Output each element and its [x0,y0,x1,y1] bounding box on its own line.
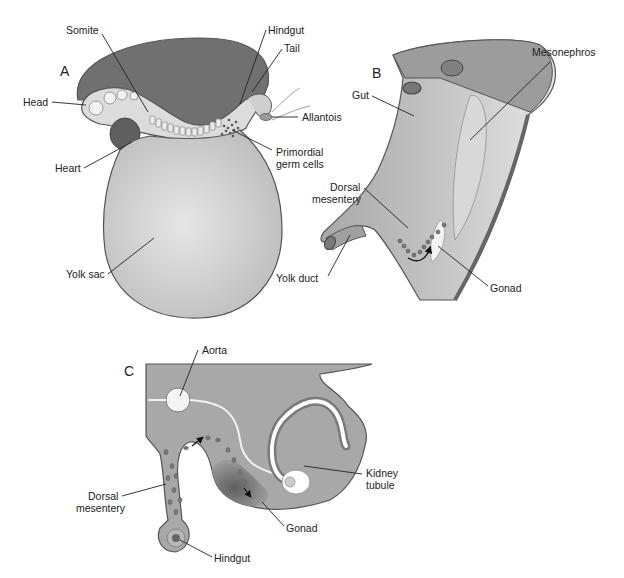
label-yolk-sac: Yolk sac [66,268,105,280]
label-yolk-duct: Yolk duct [276,272,318,284]
label-somite: Somite [66,24,99,36]
aorta [166,388,190,412]
panel-letter-a: A [60,63,70,79]
top-vessel [441,60,463,76]
panel-c: C Aorta Kidney tubule Dorsal mesentery G… [76,344,399,564]
label-primordial-germ-cells-line1: Primordial [276,146,323,158]
label-kidney-tubule-line1: Kidney [366,467,399,479]
germ-cell-migration-diagram: A Somite Hindgut Tail Head Allantois Hea… [0,0,624,578]
yolk-sac [103,130,282,318]
label-gut: Gut [352,89,369,101]
label-dorsal-mesentery-b-line1: Dorsal [330,181,360,193]
label-tail: Tail [284,42,300,54]
label-mesonephros: Mesonephros [532,46,596,58]
gut-lumen [403,82,421,94]
label-gonad-b: Gonad [490,282,522,294]
panel-letter-b: B [372,65,381,81]
panel-b: B Mesonephros Gut Dorsal mesentery Yolk … [276,40,596,300]
label-dorsal-mesentery-c-line1: Dorsal [88,490,118,502]
allantois [260,114,272,121]
label-hindgut-c: Hindgut [214,552,250,564]
label-hindgut-a: Hindgut [268,24,304,36]
panel-letter-c: C [124,363,134,379]
label-heart: Heart [55,162,81,174]
label-aorta: Aorta [202,344,227,356]
label-dorsal-mesentery-c-line2: mesentery [76,502,126,514]
label-kidney-tubule-line2: tubule [366,479,395,491]
label-dorsal-mesentery-b-line2: mesentery [312,193,362,205]
label-gonad-c: Gonad [286,522,318,534]
label-primordial-germ-cells-line2: germ cells [276,158,324,170]
label-allantois: Allantois [302,111,342,123]
label-head: Head [23,96,48,108]
